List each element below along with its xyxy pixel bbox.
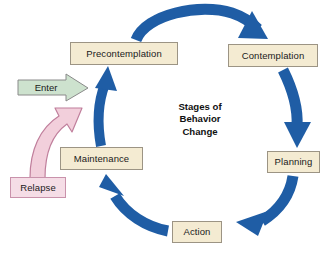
arrow-action-to-maintenance [99, 174, 168, 231]
stage-box-action[interactable]: Action [172, 221, 222, 243]
diagram-center-title: Stages of Behavior Change [158, 101, 242, 138]
center-title-line-3: Change [158, 126, 242, 138]
stage-box-maintenance[interactable]: Maintenance [60, 147, 143, 170]
stage-box-relapse[interactable]: Relapse [10, 177, 66, 198]
center-title-line-2: Behavior [158, 113, 242, 125]
stage-label-relapse: Relapse [20, 183, 56, 193]
stages-of-behavior-change-diagram: Precontemplation Contemplation Planning … [0, 0, 333, 255]
enter-arrow-label: Enter [20, 81, 72, 95]
arrow-planning-to-action [236, 176, 293, 236]
arrow-precontemplation-to-contemplation [136, 9, 268, 40]
arrow-contemplation-to-planning [283, 70, 311, 148]
stage-label-maintenance: Maintenance [74, 154, 130, 164]
stage-box-contemplation[interactable]: Contemplation [228, 44, 318, 67]
stage-label-planning: Planning [275, 157, 313, 167]
stage-label-precontemplation: Precontemplation [86, 49, 162, 59]
stage-box-precontemplation[interactable]: Precontemplation [70, 42, 178, 65]
stage-label-action: Action [183, 227, 210, 237]
center-title-line-1: Stages of [158, 101, 242, 113]
arrow-maintenance-to-precontemplation [95, 66, 117, 146]
stage-box-planning[interactable]: Planning [267, 151, 320, 173]
stage-label-contemplation: Contemplation [242, 51, 305, 61]
